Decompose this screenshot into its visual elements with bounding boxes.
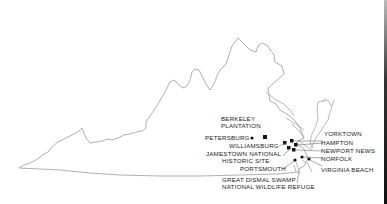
marker-berkeley-plantation[interactable]: [263, 135, 267, 139]
place-labels: BERKELEY PLANTATION PETERSBURG WILLIAMSB…: [205, 115, 375, 190]
label-norfolk: NORFOLK: [321, 155, 353, 162]
marker-newport-news[interactable]: [292, 148, 296, 152]
marker-jamestown[interactable]: [287, 146, 291, 150]
marker-hampton[interactable]: [294, 143, 298, 147]
label-great-dismal-swamp: GREAT DISMAL SWAMP NATIONAL WILDLIFE REF…: [222, 176, 315, 190]
label-williamsburg: WILLIAMSBURG: [229, 142, 279, 149]
label-berkeley-plantation: BERKELEY PLANTATION: [221, 115, 261, 129]
label-jamestown: JAMESTOWN NATIONAL HISTORIC SITE: [206, 150, 283, 164]
label-portsmouth: PORTSMOUTH: [240, 165, 286, 172]
virginia-map: BERKELEY PLANTATION PETERSBURG WILLIAMSB…: [0, 0, 387, 204]
label-petersburg: PETERSBURG: [205, 134, 250, 141]
marker-yorktown[interactable]: [290, 139, 294, 143]
label-yorktown: YORKTOWN: [324, 130, 362, 137]
label-virginia-beach: VIRGINIA BEACH: [321, 166, 374, 173]
label-hampton: HAMPTON: [321, 139, 353, 146]
marker-petersburg[interactable]: [250, 136, 253, 139]
label-newport-news: NEWPORT NEWS: [321, 147, 375, 154]
